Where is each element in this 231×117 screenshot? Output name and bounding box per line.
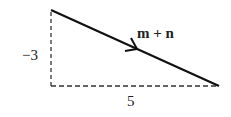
- vector-label: m + n: [137, 25, 175, 41]
- vector-line: [51, 10, 219, 86]
- horizontal-leg-label: 5: [127, 93, 135, 109]
- vertical-leg-label: −3: [22, 47, 38, 63]
- vector-diagram: m + n −3 5: [0, 0, 231, 117]
